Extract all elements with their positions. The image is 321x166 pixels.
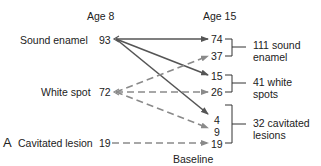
solid-transition-lines (116, 39, 208, 114)
arrow-white-to-sound (116, 56, 208, 92)
bracket-sound (225, 39, 232, 56)
arrow-sound-to-white (116, 39, 208, 75)
bracket-cavitated (225, 105, 232, 143)
arrow-white-to-cavitated (116, 92, 208, 128)
bracket-white (225, 75, 232, 92)
arrow-sound-to-cavitated (116, 39, 208, 114)
transition-diagram (0, 0, 321, 166)
